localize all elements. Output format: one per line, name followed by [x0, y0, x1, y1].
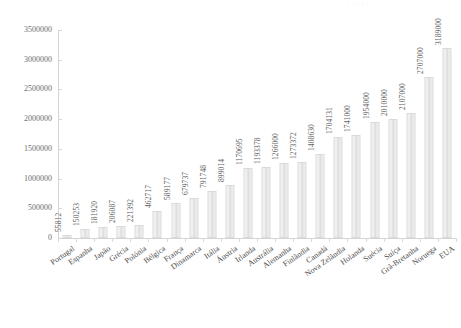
bar-value-label: 1266000: [272, 133, 280, 160]
x-axis-tick: [76, 238, 77, 242]
x-axis-tick: [438, 238, 439, 242]
x-axis-tick: [130, 238, 131, 242]
x-axis-tick: [185, 238, 186, 242]
x-axis-tick: [203, 238, 204, 242]
bar[interactable]: [370, 122, 379, 238]
x-axis-tick: [167, 238, 168, 242]
bar[interactable]: [442, 48, 451, 238]
bar-slot: 589177: [167, 30, 185, 238]
cropped-title-remnant: · · · · · ·: [250, 0, 461, 12]
y-axis-tick-label: 3500000: [24, 26, 52, 34]
x-axis-tick: [275, 238, 276, 242]
bar-value-label: 55812: [55, 212, 63, 231]
bar-slot: 791748: [203, 30, 221, 238]
y-axis-tick: [58, 89, 62, 90]
bar[interactable]: [262, 167, 271, 238]
bar-value-label: 206087: [109, 200, 117, 223]
bar[interactable]: [171, 203, 180, 238]
x-axis-tick: [384, 238, 385, 242]
bar-slot: 2707000: [420, 30, 438, 238]
x-axis-tick: [239, 238, 240, 242]
x-axis-tick: [311, 238, 312, 242]
bar-slot: 899014: [221, 30, 239, 238]
y-axis-tick-label: 500000: [28, 204, 52, 212]
bar[interactable]: [225, 185, 234, 238]
x-axis-tick: [366, 238, 367, 242]
y-axis-tick: [58, 60, 62, 61]
bar[interactable]: [406, 113, 415, 238]
bar-value-label: 2010000: [381, 89, 389, 116]
bar-slot: 462717: [148, 30, 166, 238]
bar[interactable]: [298, 162, 307, 238]
bar-slot: 1704131: [329, 30, 347, 238]
y-axis-tick-label: 2500000: [24, 85, 52, 93]
x-axis-tick: [148, 238, 149, 242]
y-axis-tick-label: 3000000: [24, 56, 52, 64]
y-axis-labels: 0500000100000015000002000000250000030000…: [0, 0, 56, 328]
bar[interactable]: [153, 211, 162, 238]
bar[interactable]: [135, 225, 144, 238]
x-axis-tick: [94, 238, 95, 242]
x-axis-tick: [58, 238, 59, 242]
x-axis-tick: [221, 238, 222, 242]
y-axis-tick: [58, 179, 62, 180]
bar-value-label: 1273372: [290, 132, 298, 159]
y-axis-tick: [58, 208, 62, 209]
bar-value-label: 589177: [164, 177, 172, 200]
bar-slot: 1741000: [347, 30, 365, 238]
bar[interactable]: [99, 227, 108, 238]
bar-value-label: 1741000: [344, 105, 352, 132]
bar-slot: 679737: [185, 30, 203, 238]
bar[interactable]: [243, 168, 252, 238]
bar[interactable]: [424, 77, 433, 238]
bar-chart: · · · · · · 0500000100000015000002000000…: [0, 0, 461, 328]
bar-value-label: 2107000: [399, 83, 407, 110]
bar[interactable]: [280, 163, 289, 238]
bar[interactable]: [352, 135, 361, 238]
x-axis-tick: [402, 238, 403, 242]
y-axis-tick: [58, 149, 62, 150]
bar-value-label: 1193378: [254, 137, 262, 164]
x-axis-category-label: EUA: [437, 244, 456, 261]
bar-value-label: 791748: [200, 165, 208, 188]
bar[interactable]: [388, 119, 397, 238]
bar[interactable]: [207, 191, 216, 238]
y-axis-tick-label: 1000000: [24, 175, 52, 183]
x-axis-tick: [257, 238, 258, 242]
bar-value-label: 1408630: [308, 124, 316, 151]
bar[interactable]: [189, 198, 198, 238]
bar-slot: 1170695: [239, 30, 257, 238]
y-axis-tick-label: 2000000: [24, 115, 52, 123]
bar-value-label: 181920: [91, 201, 99, 224]
bar-value-label: 150253: [73, 203, 81, 226]
bar-value-label: 1954000: [363, 92, 371, 119]
x-axis-tick: [293, 238, 294, 242]
bar-value-label: 679737: [182, 172, 190, 195]
y-axis-tick: [58, 119, 62, 120]
bar[interactable]: [117, 226, 126, 238]
bar-series: 5581215025318192020608722139246271758917…: [58, 30, 456, 238]
x-axis-tick: [347, 238, 348, 242]
bar[interactable]: [81, 229, 90, 238]
bar-slot: 2010000: [384, 30, 402, 238]
y-axis-tick: [58, 30, 62, 31]
bar-slot: 1408630: [311, 30, 329, 238]
bar-slot: 1954000: [366, 30, 384, 238]
y-axis-tick-label: 0: [48, 234, 52, 242]
x-axis-category-label: Suécia: [361, 244, 384, 264]
bar-value-label: 1704131: [326, 107, 334, 134]
bar-value-label: 899014: [218, 158, 226, 181]
y-axis-tick-label: 1500000: [24, 145, 52, 153]
x-axis-tick: [420, 238, 421, 242]
x-axis-tick: [112, 238, 113, 242]
bar-value-label: 3189000: [435, 19, 443, 46]
bar-value-label: 2707000: [417, 47, 425, 74]
x-axis-tick: [329, 238, 330, 242]
bar-value-label: 221392: [127, 199, 135, 222]
bar-value-label: 462717: [145, 184, 153, 207]
bar[interactable]: [316, 154, 325, 238]
x-axis-category-labels: PortugalEspanhaJapãoGréciaPolóniaBélgica…: [58, 244, 456, 328]
bar[interactable]: [334, 137, 343, 238]
x-axis-tick: [456, 238, 457, 242]
bar-value-label: 1170695: [236, 139, 244, 166]
